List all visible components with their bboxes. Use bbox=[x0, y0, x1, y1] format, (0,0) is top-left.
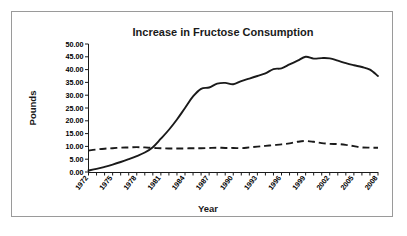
x-tick-label: 1981 bbox=[146, 174, 163, 192]
y-axis-tick-labels: 0.005.0010.0015.0020.0025.0030.0035.0040… bbox=[66, 40, 84, 177]
x-tick-label: 1999 bbox=[290, 174, 307, 192]
x-tick-label: 1978 bbox=[121, 174, 138, 192]
y-tick-label: 30.00 bbox=[66, 91, 84, 100]
x-tick-label: 1990 bbox=[218, 174, 235, 192]
y-tick-label: 50.00 bbox=[66, 40, 84, 49]
y-tick-label: 5.00 bbox=[70, 155, 84, 164]
x-axis-tick-labels: 1972197519781981198419871990199319961999… bbox=[73, 174, 379, 192]
y-tick-label: 40.00 bbox=[66, 65, 84, 74]
chart-title: Increase in Fructose Consumption bbox=[133, 26, 314, 38]
x-tick-label: 2008 bbox=[363, 174, 380, 192]
y-tick-label: 35.00 bbox=[66, 78, 84, 87]
chart-figure: Increase in Fructose Consumption Pounds … bbox=[0, 0, 407, 236]
y-tick-label: 15.00 bbox=[66, 129, 84, 138]
y-tick-label: 10.00 bbox=[66, 142, 84, 151]
axis-tick-marks bbox=[85, 44, 378, 176]
x-tick-label: 2005 bbox=[339, 174, 356, 192]
x-axis-title: Year bbox=[198, 203, 218, 214]
y-tick-label: 20.00 bbox=[66, 116, 84, 125]
y-axis-title: Pounds bbox=[27, 91, 38, 126]
x-tick-label: 2002 bbox=[314, 174, 331, 192]
series-line-other-sweetener bbox=[89, 141, 379, 150]
x-tick-label: 1975 bbox=[97, 174, 114, 192]
x-tick-label: 1996 bbox=[266, 174, 283, 192]
x-tick-label: 1993 bbox=[242, 174, 259, 192]
series-line-fructose bbox=[89, 57, 379, 171]
fructose-consumption-chart: Increase in Fructose Consumption Pounds … bbox=[0, 0, 407, 236]
x-tick-label: 1984 bbox=[170, 174, 187, 192]
y-tick-label: 25.00 bbox=[66, 104, 84, 113]
y-tick-label: 45.00 bbox=[66, 52, 84, 61]
x-tick-label: 1987 bbox=[194, 174, 211, 192]
